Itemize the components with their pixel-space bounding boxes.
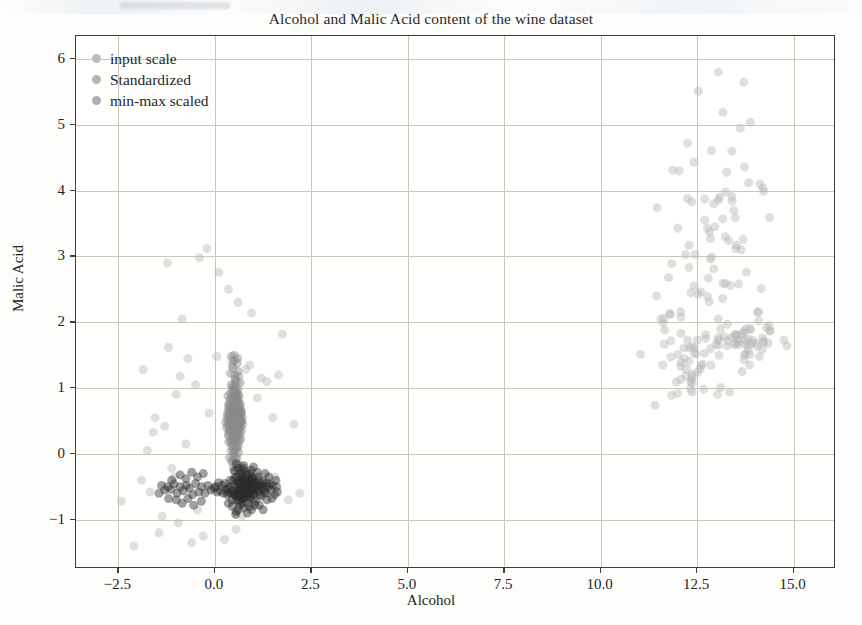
- scatter-point: [205, 409, 214, 418]
- scatter-point: [229, 476, 238, 485]
- scatter-point: [676, 307, 685, 316]
- legend-label: min-max scaled: [110, 92, 209, 110]
- legend-label: input scale: [110, 50, 177, 68]
- scatter-point: [139, 365, 148, 374]
- y-tick-mark: [70, 519, 75, 520]
- scatter-point: [154, 489, 163, 498]
- scatter-point: [129, 541, 138, 550]
- scatter-point: [701, 334, 710, 343]
- scatter-point: [146, 488, 155, 497]
- scatter-point: [233, 354, 242, 363]
- scatter-point: [253, 393, 262, 402]
- scatter-point: [271, 476, 280, 485]
- scatter-point: [742, 268, 751, 277]
- scatter-point: [729, 206, 738, 215]
- scatter-point: [191, 380, 200, 389]
- scatter-point: [251, 501, 260, 510]
- scatter-point: [636, 350, 645, 359]
- scatter-point: [226, 369, 235, 378]
- legend-marker-icon: [92, 75, 101, 84]
- scan-artifact-secondary: [120, 2, 230, 9]
- scatter-point: [247, 466, 256, 475]
- scatter-point: [262, 377, 271, 386]
- scatter-point: [256, 490, 265, 499]
- scatter-point: [673, 224, 682, 233]
- legend-item-min-max-scaled[interactable]: min-max scaled: [92, 90, 209, 111]
- scatter-point: [181, 439, 190, 448]
- scatter-point: [715, 351, 724, 360]
- scatter-point: [157, 481, 166, 490]
- scatter-point: [259, 505, 268, 514]
- scatter-point: [722, 168, 731, 177]
- legend-item-standardized[interactable]: Standardized: [92, 69, 209, 90]
- scatter-point: [164, 343, 173, 352]
- scatter-point: [151, 413, 160, 422]
- x-tick-mark: [214, 568, 215, 573]
- y-tick-mark: [70, 387, 75, 388]
- y-tick-mark: [70, 124, 75, 125]
- scatter-point: [172, 495, 181, 504]
- scatter-point: [158, 512, 167, 521]
- scatter-point: [694, 87, 703, 96]
- scatter-point: [699, 385, 708, 394]
- scatter-point: [665, 309, 674, 318]
- scatter-point: [725, 387, 734, 396]
- scatter-point: [658, 361, 667, 370]
- scatter-point: [676, 329, 685, 338]
- scatter-point: [746, 118, 755, 127]
- scatter-point: [680, 343, 689, 352]
- scatter-point: [734, 280, 743, 289]
- scatter-point: [723, 341, 732, 350]
- scatter-point: [224, 499, 233, 508]
- scatter-point: [688, 342, 697, 351]
- scatter-point: [160, 422, 169, 431]
- scatter-point: [666, 336, 675, 345]
- scatter-point: [187, 538, 196, 547]
- y-axis-label: Malic Acid: [10, 189, 27, 369]
- scatter-point: [178, 314, 187, 323]
- scatter-point: [690, 158, 699, 167]
- scatter-point: [214, 268, 223, 277]
- y-tick-label: 1: [17, 379, 65, 396]
- scatter-point: [241, 492, 250, 501]
- scatter-point: [232, 430, 241, 439]
- x-tick-mark: [793, 568, 794, 573]
- scatter-point: [704, 274, 713, 283]
- x-tick-label: 5.0: [397, 576, 416, 593]
- scatter-point: [174, 518, 183, 527]
- scatter-point: [231, 510, 240, 519]
- scatter-point: [727, 147, 736, 156]
- scatter-point: [199, 532, 208, 541]
- scatter-point: [667, 391, 676, 400]
- scatter-point: [700, 195, 709, 204]
- scatter-point: [234, 415, 243, 424]
- scatter-point: [683, 139, 692, 148]
- scatter-point: [687, 197, 696, 206]
- y-tick-mark: [70, 190, 75, 191]
- scatter-point: [754, 316, 763, 325]
- scatter-point: [176, 470, 185, 479]
- scatter-point: [652, 203, 661, 212]
- legend-item-input-scale[interactable]: input scale: [92, 48, 209, 69]
- scatter-point: [754, 307, 763, 316]
- scatter-point: [224, 438, 233, 447]
- scatter-point: [685, 241, 694, 250]
- scatter-point: [223, 490, 232, 499]
- x-tick-label: 12.5: [683, 576, 709, 593]
- scatter-point: [183, 354, 192, 363]
- scatter-point: [273, 488, 282, 497]
- scatter-point: [149, 428, 158, 437]
- x-tick-label: 2.5: [301, 576, 320, 593]
- x-tick-label: −2.5: [104, 576, 131, 593]
- scatter-point: [696, 364, 705, 373]
- scatter-point: [231, 389, 240, 398]
- scatter-point: [716, 324, 725, 333]
- scatter-point: [706, 255, 715, 264]
- scatter-point: [652, 291, 661, 300]
- scatter-point: [700, 349, 709, 358]
- scatter-point: [718, 214, 727, 223]
- scatter-point: [745, 350, 754, 359]
- scatter-point: [685, 263, 694, 272]
- scatter-point: [739, 235, 748, 244]
- scatter-point: [703, 292, 712, 301]
